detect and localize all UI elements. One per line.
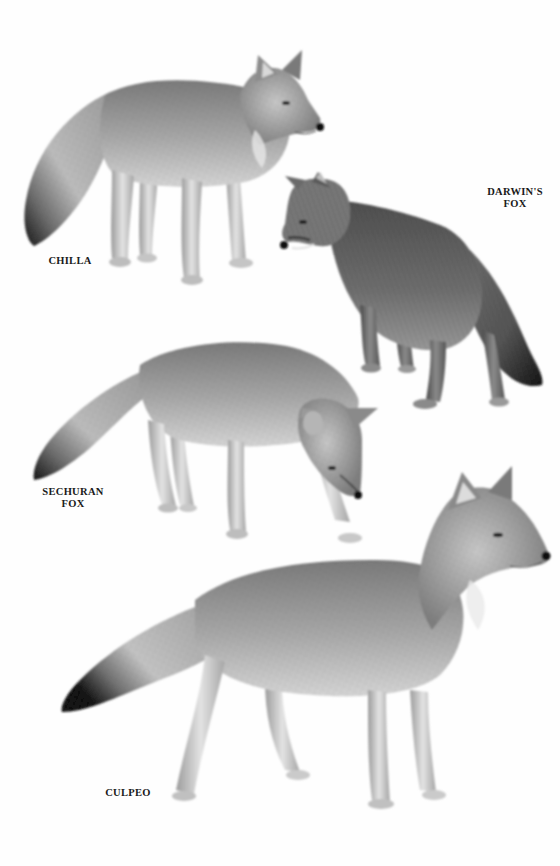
caption-chilla: CHILLA bbox=[42, 255, 98, 267]
caption-darwins-line-2: FOX bbox=[480, 198, 550, 210]
fox-chilla bbox=[24, 50, 324, 285]
caption-darwins-line-1: DARWIN'S bbox=[480, 186, 550, 198]
caption-darwins-fox: DARWIN'S FOX bbox=[480, 186, 550, 210]
caption-culpeo: CULPEO bbox=[96, 787, 160, 799]
caption-chilla-line-1: CHILLA bbox=[42, 255, 98, 267]
caption-culpeo-line-1: CULPEO bbox=[96, 787, 160, 799]
fox-culpeo bbox=[62, 466, 551, 809]
illustration-plate: CHILLA DARWIN'S FOX SECHURAN FOX CULPEO bbox=[0, 0, 560, 866]
caption-sechuran-line-1: SECHURAN bbox=[28, 486, 118, 498]
caption-sechuran-line-2: FOX bbox=[28, 498, 118, 510]
caption-sechuran-fox: SECHURAN FOX bbox=[28, 486, 118, 510]
fox-sechuran bbox=[34, 342, 378, 543]
fox-illustrations bbox=[0, 0, 560, 866]
